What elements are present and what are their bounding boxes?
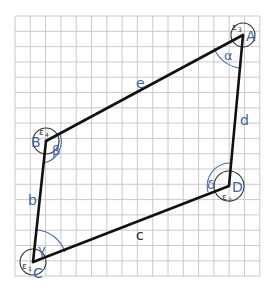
vertex-label-c: C	[33, 265, 43, 281]
svg-text:2: 2	[228, 196, 232, 203]
svg-text:1: 1	[28, 265, 32, 272]
vertex-label-a: A	[246, 28, 256, 44]
side-label-d: d	[240, 112, 249, 128]
svg-text:ε: ε	[232, 22, 237, 32]
side-label-e: e	[136, 75, 145, 91]
side-label-b: b	[28, 192, 37, 208]
angle-label-alpha: α	[224, 48, 233, 63]
svg-text:ε: ε	[222, 192, 227, 202]
side-label-c: c	[136, 227, 144, 243]
angle-label-gamma: γ	[38, 242, 46, 257]
svg-text:3: 3	[238, 26, 242, 33]
svg-text:ε: ε	[22, 261, 27, 271]
vertex-label-d: D	[232, 179, 243, 195]
svg-text:ε: ε	[39, 127, 44, 137]
diagram-canvas: A B C D α β γ δ ε 3 ε 4 ε 1 ε 2 e d c b	[0, 0, 265, 298]
side-c	[33, 186, 229, 262]
angle-label-beta: β	[52, 143, 60, 158]
svg-text:4: 4	[45, 131, 49, 138]
angle-label-delta: δ	[207, 177, 215, 192]
